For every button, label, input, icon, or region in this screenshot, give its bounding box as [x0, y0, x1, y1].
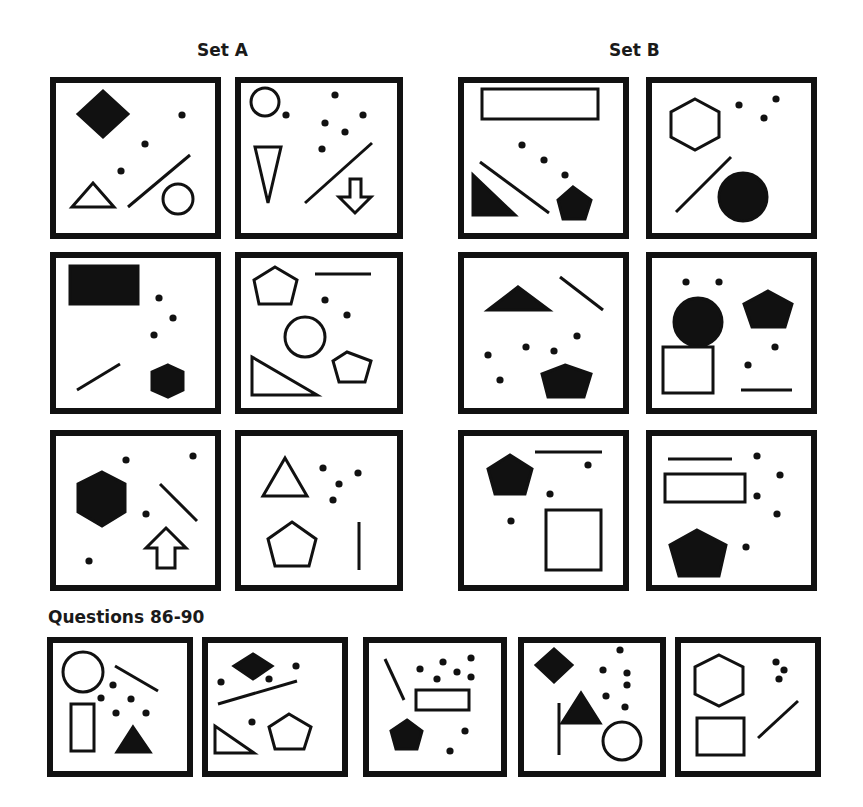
outline-triangle-shape — [255, 147, 281, 203]
dot-shape — [248, 718, 255, 725]
dot-shape — [760, 114, 767, 121]
dot-shape — [335, 480, 342, 487]
outline-rectangle-shape — [697, 718, 744, 755]
panel-q-87 — [202, 637, 348, 777]
dot-shape — [155, 294, 162, 301]
dot-shape — [329, 496, 336, 503]
filled-hexagon-shape — [152, 365, 183, 397]
panel-set-a-4 — [235, 252, 403, 414]
dot-shape — [461, 727, 468, 734]
filled-pentagon-shape — [670, 530, 726, 576]
panel-set-b-1 — [458, 77, 629, 239]
dot-shape — [507, 517, 514, 524]
dot-shape — [621, 703, 628, 710]
dot-shape — [142, 709, 149, 716]
dot-shape — [484, 351, 491, 358]
dot-shape — [467, 654, 474, 661]
dot-shape — [97, 694, 104, 701]
dot-shape — [117, 167, 124, 174]
filled-pentagon-shape — [744, 291, 792, 327]
outline-arrow-shape — [339, 179, 371, 213]
filled-triangle-shape — [473, 175, 515, 215]
panel-set-a-5 — [50, 430, 221, 591]
filled-circle-shape — [674, 298, 722, 346]
filled-hexagon-shape — [78, 472, 125, 526]
filled-diamond-shape — [78, 91, 128, 137]
outline-triangle-shape — [252, 357, 317, 395]
dot-shape — [773, 510, 780, 517]
outline-pentagon-shape — [254, 267, 297, 304]
dot-shape — [112, 709, 119, 716]
filled-pentagon-shape — [391, 720, 422, 749]
dot-shape — [109, 681, 116, 688]
outline-circle-shape — [285, 317, 325, 357]
dot-shape — [599, 666, 606, 673]
outline-circle-shape — [603, 722, 641, 760]
outline-rectangle-shape — [665, 474, 745, 502]
dot-shape — [715, 278, 722, 285]
line-shape — [560, 277, 603, 310]
questions-heading: Questions 86-90 — [48, 607, 204, 627]
set-a-heading: Set A — [197, 40, 248, 60]
line-shape — [160, 484, 197, 521]
filled-rectangle-shape — [70, 266, 138, 304]
dot-shape — [122, 456, 129, 463]
panel-q-90 — [675, 637, 821, 777]
dot-shape — [772, 95, 779, 102]
outline-pentagon-shape — [269, 714, 311, 749]
dot-shape — [753, 452, 760, 459]
dot-shape — [178, 111, 185, 118]
dot-shape — [416, 665, 423, 672]
outline-triangle-shape — [263, 458, 307, 496]
dot-shape — [265, 675, 272, 682]
dot-shape — [518, 141, 525, 148]
dot-shape — [341, 128, 348, 135]
dot-shape — [602, 692, 609, 699]
line-shape — [385, 659, 404, 700]
dot-shape — [282, 111, 289, 118]
filled-triangle-shape — [562, 693, 600, 723]
filled-triangle-shape — [117, 727, 150, 752]
dot-shape — [540, 156, 547, 163]
dot-shape — [141, 140, 148, 147]
panel-set-b-3 — [458, 252, 629, 414]
line-shape — [218, 681, 297, 704]
dot-shape — [354, 469, 361, 476]
outline-triangle-shape — [215, 726, 254, 753]
dot-shape — [150, 331, 157, 338]
outline-rectangle-shape — [663, 347, 713, 393]
dot-shape — [318, 145, 325, 152]
filled-diamond-shape — [234, 654, 272, 679]
dot-shape — [496, 376, 503, 383]
dot-shape — [616, 646, 623, 653]
dot-shape — [775, 675, 782, 682]
panel-q-86 — [47, 637, 193, 777]
outline-pentagon-shape — [268, 522, 316, 566]
panel-q-89 — [518, 637, 666, 777]
dot-shape — [319, 464, 326, 471]
filled-diamond-shape — [536, 649, 572, 682]
panel-set-b-5 — [458, 430, 629, 591]
dot-shape — [433, 675, 440, 682]
panel-set-a-1 — [50, 77, 221, 239]
filled-pentagon-shape — [542, 365, 591, 397]
dot-shape — [753, 492, 760, 499]
dot-shape — [292, 662, 299, 669]
outline-arrow-shape — [146, 528, 186, 568]
dot-shape — [735, 101, 742, 108]
outline-hexagon-shape — [671, 99, 719, 150]
outline-triangle-shape — [72, 183, 114, 207]
dot-shape — [623, 669, 630, 676]
dot-shape — [85, 557, 92, 564]
dot-shape — [343, 311, 350, 318]
dot-shape — [446, 747, 453, 754]
panel-set-b-4 — [646, 252, 817, 414]
dot-shape — [331, 91, 338, 98]
dot-shape — [142, 510, 149, 517]
line-shape — [77, 364, 120, 390]
dot-shape — [189, 452, 196, 459]
panel-set-b-2 — [646, 77, 817, 239]
dot-shape — [561, 171, 568, 178]
dot-shape — [742, 543, 749, 550]
line-shape — [758, 701, 798, 738]
